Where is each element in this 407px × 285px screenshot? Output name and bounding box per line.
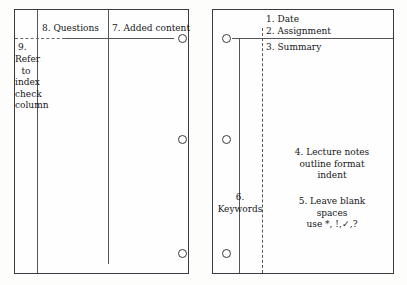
right-hole-top	[222, 34, 231, 43]
right-note-area-dashed-guide	[262, 28, 263, 273]
right-blank-line-1: 5. Leave blank	[269, 196, 395, 208]
left-page-sheet: 8. Questions 7. Added content 9. Refer t…	[14, 9, 189, 274]
right-blank-spaces-block: 5. Leave blank spaces use *, !,✓,?	[269, 196, 395, 231]
right-keywords-number: 6.	[210, 192, 270, 204]
right-keywords-label: Keywords	[210, 204, 270, 216]
right-header-rule	[232, 38, 393, 39]
left-index-line-4: column	[15, 100, 37, 112]
right-keyword-column-divider	[239, 39, 240, 273]
right-lecture-line-1: 4. Lecture notes	[269, 147, 395, 159]
left-index-line-2: index	[15, 77, 37, 89]
left-header-rule-dashed	[15, 38, 65, 39]
right-page-sheet: 1. Date 2. Assignment 3. Summary 4. Lect…	[212, 9, 394, 274]
right-lecture-line-2: outline format	[269, 159, 395, 171]
left-header-rule-solid	[65, 38, 174, 39]
diagram-canvas: 8. Questions 7. Added content 9. Refer t…	[0, 0, 407, 285]
left-index-line-1: Refer to	[15, 54, 37, 77]
left-index-column-divider	[37, 10, 38, 273]
right-keywords-block: 6. Keywords	[210, 192, 270, 215]
right-blank-line-3: use *, !,✓,?	[269, 219, 395, 231]
right-lecture-line-3: indent	[269, 170, 395, 182]
right-hole-middle	[222, 135, 231, 144]
left-center-divider	[108, 10, 109, 264]
right-hole-bottom	[222, 249, 231, 258]
right-label-date: 1. Date	[266, 14, 299, 25]
left-hole-bottom	[178, 249, 187, 258]
right-blank-line-2: spaces	[269, 208, 395, 220]
right-label-summary: 3. Summary	[266, 42, 321, 53]
left-label-added-content: 7. Added content	[112, 23, 190, 34]
right-lecture-notes-block: 4. Lecture notes outline format indent	[269, 147, 395, 182]
right-label-assignment: 2. Assignment	[266, 26, 331, 37]
left-label-questions: 8. Questions	[42, 23, 99, 34]
left-label-index-number: 9.	[18, 42, 27, 53]
left-index-line-3: check	[15, 89, 37, 101]
left-hole-top	[178, 34, 187, 43]
left-index-instruction-block: Refer to index check column	[15, 54, 37, 112]
left-hole-middle	[178, 135, 187, 144]
